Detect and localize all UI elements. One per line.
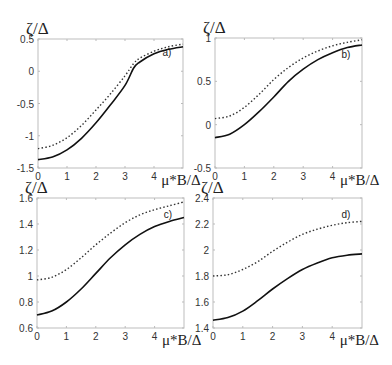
chart-panel-c: 012341.61.41.210.80.6ζ/Δμ*B/Δc) [19,178,202,348]
x-tick-label: 1 [242,171,248,182]
series-dotted [37,202,184,280]
y-tick-label: 0 [28,66,34,77]
panel-tag: c) [164,209,172,220]
series-dotted [213,221,362,276]
x-tick-label: 4 [152,331,158,342]
panel-tag: b) [342,49,351,60]
x-axis-label: μ*B/Δ [340,332,380,348]
y-tick-label: 0.5 [197,76,211,87]
x-tick-label: 0 [34,331,40,342]
y-tick-label: -0.5 [17,99,35,110]
y-tick-label: 1.8 [195,271,209,282]
series-dotted [215,40,362,119]
y-tick-label: 2 [203,245,209,256]
y-tick-label: 0.8 [19,297,33,308]
x-tick-label: 0 [210,331,216,342]
x-axis-label: μ*B/Δ [340,172,380,188]
x-tick-label: 2 [93,171,99,182]
x-tick-label: 1 [64,171,70,182]
y-tick-label: 1 [27,271,33,282]
x-tick-label: 4 [151,171,157,182]
x-tick-label: 2 [93,331,99,342]
y-tick-label: 1.4 [195,323,209,334]
x-tick-label: 2 [271,171,277,182]
series-solid [37,218,184,316]
x-tick-label: 3 [122,331,128,342]
y-tick-label: 0.6 [19,323,33,334]
x-tick-label: 4 [330,171,336,182]
x-axis-label: μ*B/Δ [161,172,201,188]
x-tick-label: 2 [270,331,276,342]
x-tick-label: 3 [122,171,128,182]
y-tick-label: 1.2 [19,245,33,256]
plot-frame [37,198,184,328]
y-axis-label: ζ/Δ [203,18,226,37]
y-tick-label: -1 [25,131,34,142]
x-tick-label: 4 [329,331,335,342]
plot-frame [215,38,362,168]
x-tick-label: 3 [300,171,306,182]
series-solid [215,45,362,138]
x-tick-label: 1 [64,331,70,342]
panel-tag: d) [342,209,351,220]
x-tick-label: 1 [240,331,246,342]
y-axis-label: ζ/Δ [26,19,49,38]
chart-panel-b: 0123410.50-0.5ζ/Δμ*B/Δb) [194,18,380,188]
y-tick-label: 1.6 [195,297,209,308]
y-tick-label: -0.5 [194,163,212,174]
plot-frame [213,198,362,328]
y-axis-label: ζ/Δ [25,178,48,197]
y-tick-label: 1.4 [19,219,33,230]
y-tick-label: 2.2 [195,219,209,230]
y-axis-label: ζ/Δ [201,178,224,197]
x-tick-label: 3 [300,331,306,342]
y-tick-label: 0 [205,120,211,131]
y-tick-label: -1.5 [17,163,35,174]
chart-panel-d: 012342.42.221.81.61.4ζ/Δμ*B/Δd) [195,178,379,348]
series-dotted [38,44,183,148]
chart-panel-a: 012340.50-0.5-1-1.5ζ/Δμ*B/Δa) [17,19,201,188]
x-axis-label: μ*B/Δ [162,332,202,348]
series-solid [213,254,362,320]
figure-canvas: 012340.50-0.5-1-1.5ζ/Δμ*B/Δa)0123410.50-… [0,0,392,365]
